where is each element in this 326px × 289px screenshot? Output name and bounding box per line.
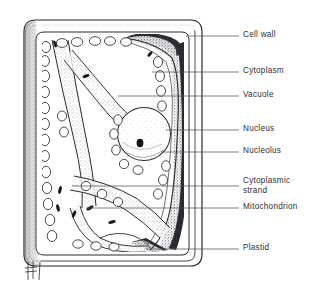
label-plastid: Plastid xyxy=(243,243,269,254)
nucleolus-structure xyxy=(137,139,144,147)
label-nucleolus: Nucleolus xyxy=(243,146,281,157)
nucleus-structure xyxy=(118,108,171,162)
cell-diagram-figure: Cell wall Cytoplasm Vacuole Nucleus Nucl… xyxy=(0,0,326,289)
label-mitochondrion: Mitochondrion xyxy=(243,202,298,213)
label-cytoplasmic-strand: Cytoplasmic strand xyxy=(243,176,290,196)
plant-cell-drawing xyxy=(0,0,326,289)
label-cytoplasm: Cytoplasm xyxy=(243,66,284,77)
label-vacuole: Vacuole xyxy=(243,90,274,101)
label-nucleus: Nucleus xyxy=(243,124,274,135)
cell-interior xyxy=(38,32,190,254)
label-cell-wall: Cell wall xyxy=(243,30,276,41)
